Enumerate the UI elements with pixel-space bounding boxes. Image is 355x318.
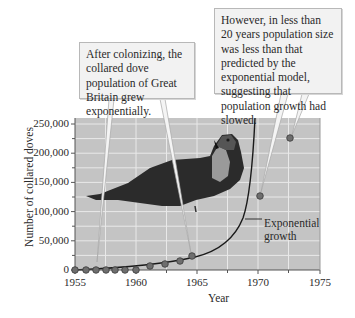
data-point: [177, 258, 184, 265]
exponential-growth-label-line1: Exponential: [264, 217, 320, 230]
y-tick-label: 200,000: [9, 146, 69, 158]
data-point: [72, 267, 79, 274]
data-point: [83, 267, 90, 274]
x-tick-label: 1975: [300, 276, 340, 288]
data-point: [122, 267, 129, 274]
data-point: [112, 267, 119, 274]
y-tick-label: 100,000: [9, 205, 69, 217]
data-point: [133, 267, 140, 274]
exponential-growth-label-line2: growth: [264, 230, 320, 243]
y-tick-label: 0: [9, 263, 69, 275]
y-tick-label: 150,000: [9, 175, 69, 187]
x-tick-label: 1965: [177, 276, 217, 288]
y-tick-label: 250,000: [9, 117, 69, 129]
data-point: [257, 193, 264, 200]
y-axis: [71, 118, 75, 270]
data-point: [189, 253, 196, 260]
x-tick-label: 1970: [238, 276, 278, 288]
data-point: [287, 135, 294, 142]
data-point: [93, 267, 100, 274]
x-tick-label: 1960: [116, 276, 156, 288]
callout-exponential-growth: After colonizing, the collared dove popu…: [79, 42, 195, 99]
y-tick-label: 50,000: [9, 234, 69, 246]
data-point: [103, 267, 110, 274]
x-axis-label: Year: [208, 292, 229, 304]
x-tick-label: 1955: [55, 276, 95, 288]
data-point: [147, 263, 154, 270]
exponential-growth-label: Exponential growth: [264, 217, 320, 243]
callout-growth-slowed: However, in less than 20 years populatio…: [214, 8, 342, 94]
data-point: [162, 261, 169, 268]
